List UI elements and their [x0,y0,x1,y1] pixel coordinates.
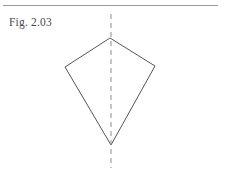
figure-page: Fig. 2.03 [0,0,225,175]
geometry-diagram [0,0,225,175]
kite-polygon [65,38,155,145]
